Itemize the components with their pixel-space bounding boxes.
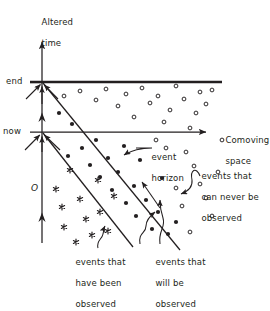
- line-end-of-time: [30, 82, 222, 83]
- annotation-have-been-observed-line2: have been: [75, 278, 121, 288]
- marker-open-circle: [78, 89, 82, 93]
- marker-filled-dot: [124, 201, 128, 205]
- marker-filled-dot: [106, 156, 110, 160]
- marker-open-circle: [148, 101, 152, 105]
- annotation-will-be-observed-line1: events that: [155, 257, 205, 267]
- marker-open-circle: [116, 104, 120, 108]
- marker-filled-dot: [134, 214, 138, 218]
- annotation-have-been-observed-line3: observed: [75, 299, 116, 309]
- leader-will-be-observed: [140, 200, 164, 244]
- marker-filled-dot: [88, 163, 92, 167]
- marker-filled-dot: [116, 170, 120, 174]
- marker-asterisk: [77, 196, 82, 202]
- marker-open-circle: [194, 111, 198, 115]
- marker-filled-dot: [150, 227, 154, 231]
- marker-open-circle: [168, 108, 172, 112]
- marker-open-circle: [188, 126, 192, 130]
- annotation-never-observed: events that can never be observed: [190, 160, 259, 234]
- marker-open-circle: [210, 88, 214, 92]
- marker-open-circle: [156, 94, 160, 98]
- annotation-have-been-observed: events that have been observed: [64, 246, 126, 311]
- marker-filled-dot: [110, 188, 114, 192]
- marker-open-circle: [124, 92, 128, 96]
- arrows-converging-end: [26, 85, 58, 105]
- marker-filled-dot: [80, 146, 84, 150]
- y-axis-label: Altered time: [30, 6, 73, 59]
- marker-open-circle: [94, 98, 98, 102]
- marker-filled-dot: [174, 220, 178, 224]
- marker-filled-dot: [94, 138, 98, 142]
- marker-open-circle: [162, 120, 166, 124]
- marker-open-circle: [62, 94, 66, 98]
- marker-open-circle: [132, 115, 136, 119]
- marker-asterisk: [105, 228, 110, 234]
- marker-filled-dot: [122, 144, 126, 148]
- annotation-will-be-observed: events that will be observed: [144, 246, 206, 311]
- marker-filled-dot: [132, 184, 136, 188]
- arrows-converging-now: [25, 135, 60, 152]
- tick-label-end: end: [6, 76, 22, 87]
- marker-filled-dot: [144, 198, 148, 202]
- tick-label-now: now: [3, 126, 21, 137]
- y-axis-label-line1: Altered: [41, 17, 73, 27]
- marker-asterisk: [53, 186, 58, 192]
- marker-asterisk: [61, 224, 66, 230]
- marker-open-circle: [174, 84, 178, 88]
- marker-filled-dot: [156, 210, 160, 214]
- annotation-event-horizon: event horizon: [140, 141, 184, 194]
- annotation-never-observed-line3: observed: [201, 213, 242, 223]
- marker-asterisk: [89, 232, 94, 238]
- annotation-never-observed-line2: can never be: [201, 192, 258, 202]
- marker-open-circle: [140, 86, 144, 90]
- marker-open-circle: [182, 97, 186, 101]
- marker-asterisk: [83, 216, 88, 222]
- x-axis-label-line1: Comoving: [225, 135, 269, 145]
- series-events-that-have-been-observed: [53, 167, 116, 245]
- marker-open-circle: [198, 90, 202, 94]
- marker-filled-dot: [57, 111, 61, 115]
- y-axis-label-line2: time: [41, 38, 61, 48]
- annotation-will-be-observed-line3: observed: [155, 299, 196, 309]
- annotation-never-observed-line1: events that: [201, 171, 251, 181]
- marker-asterisk: [73, 239, 78, 245]
- annotation-have-been-observed-line1: events that: [75, 257, 125, 267]
- marker-filled-dot: [98, 175, 102, 179]
- annotation-event-horizon-line1: event: [151, 152, 176, 162]
- leader-have-been-observed: [98, 226, 105, 248]
- marker-asterisk: [97, 209, 102, 215]
- marker-open-circle: [204, 102, 208, 106]
- marker-open-circle: [180, 204, 184, 208]
- marker-open-circle: [184, 150, 188, 154]
- origin-label: O: [31, 183, 38, 194]
- marker-open-circle: [104, 87, 108, 91]
- marker-filled-dot: [70, 122, 74, 126]
- annotation-event-horizon-line2: horizon: [151, 173, 184, 183]
- annotation-will-be-observed-line2: will be: [155, 278, 183, 288]
- marker-asterisk: [111, 193, 116, 199]
- marker-filled-dot: [66, 154, 70, 158]
- marker-filled-dot: [166, 232, 170, 236]
- marker-asterisk: [59, 204, 64, 210]
